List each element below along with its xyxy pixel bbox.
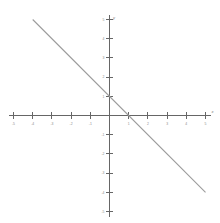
data-line: [33, 20, 206, 193]
y-axis-tick-label: -4: [101, 191, 104, 195]
x-axis-tick-label: 3: [166, 122, 168, 126]
y-axis-name: y: [112, 15, 116, 20]
y-axis-tick-label: 1: [103, 95, 105, 99]
y-axis-tick-label: -5: [101, 210, 104, 214]
x-axis-tick-label: -5: [12, 122, 15, 126]
y-axis-tick-label: 4: [103, 37, 105, 41]
x-axis-tick-label: -2: [70, 122, 73, 126]
x-axis-tick-label: -4: [31, 122, 34, 126]
x-axis-tick-label: 1: [128, 122, 130, 126]
x-axis-tick-label: 5: [205, 122, 207, 126]
axes-group: [9, 15, 211, 217]
coordinate-plane-figure: -5-4-3-2-11234554321-1-2-3-4-5 xy: [0, 0, 220, 223]
y-axis-tick-label: -3: [101, 171, 104, 175]
y-axis-tick-label: 5: [103, 18, 105, 22]
data-series-group: [33, 20, 206, 193]
x-axis-tick-label: -3: [50, 122, 53, 126]
axis-names-group: xy: [112, 15, 215, 114]
x-axis-tick-label: -1: [89, 122, 92, 126]
y-axis-tick-label: -2: [101, 152, 104, 156]
plot-svg: -5-4-3-2-11234554321-1-2-3-4-5 xy: [0, 0, 220, 223]
y-axis-tick-label: 2: [103, 75, 105, 79]
y-axis-tick-label: -1: [101, 133, 104, 137]
x-axis-tick-label: 2: [147, 122, 149, 126]
x-axis-tick-label: 4: [185, 122, 187, 126]
x-axis-name: x: [211, 109, 215, 114]
y-axis-tick-label: 3: [103, 56, 105, 60]
